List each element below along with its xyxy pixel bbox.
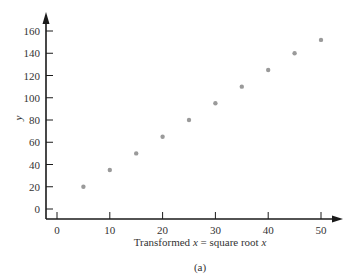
y-tick-label: 40 (29, 159, 41, 171)
x-tick-label: 50 (316, 224, 328, 236)
y-axis-ticks: 020406080100120140160 (24, 25, 54, 215)
x-tick-label: 20 (157, 224, 169, 236)
data-point (319, 38, 323, 42)
data-point (160, 134, 164, 138)
y-tick-label: 20 (29, 181, 41, 193)
data-point (292, 51, 296, 55)
x-tick-label: 30 (210, 224, 222, 236)
scatter-chart: 020406080100120140160 01020304050 y Tran… (0, 0, 354, 275)
data-point (213, 101, 217, 105)
y-tick-label: 60 (29, 136, 41, 148)
y-axis-arrow-icon (43, 12, 50, 24)
x-tick-label: 10 (104, 224, 116, 236)
figure-caption: (a) (194, 261, 207, 274)
x-axis-label-prefix: Transformed (134, 236, 193, 248)
data-point (266, 68, 270, 72)
y-tick-label: 160 (24, 25, 41, 37)
data-point (187, 118, 191, 122)
data-point (240, 84, 244, 88)
data-point (134, 151, 138, 155)
y-tick-label: 0 (35, 203, 41, 215)
x-axis-ticks: 01020304050 (54, 212, 327, 236)
x-axis-arrow-icon (332, 216, 343, 223)
x-tick-label: 40 (263, 224, 275, 236)
axes (43, 12, 344, 223)
x-tick-label: 0 (54, 224, 60, 236)
x-axis-label: Transformed x = square root x (134, 236, 267, 248)
data-points (81, 38, 323, 189)
y-tick-label: 100 (24, 92, 41, 104)
data-point (81, 185, 85, 189)
y-tick-label: 140 (24, 47, 41, 59)
x-axis-label-middle: = square root (198, 236, 262, 248)
data-point (108, 168, 112, 172)
y-tick-label: 120 (24, 70, 41, 82)
x-axis-label-var2: x (260, 236, 266, 248)
y-axis-label: y (12, 115, 24, 121)
y-tick-label: 80 (29, 114, 41, 126)
